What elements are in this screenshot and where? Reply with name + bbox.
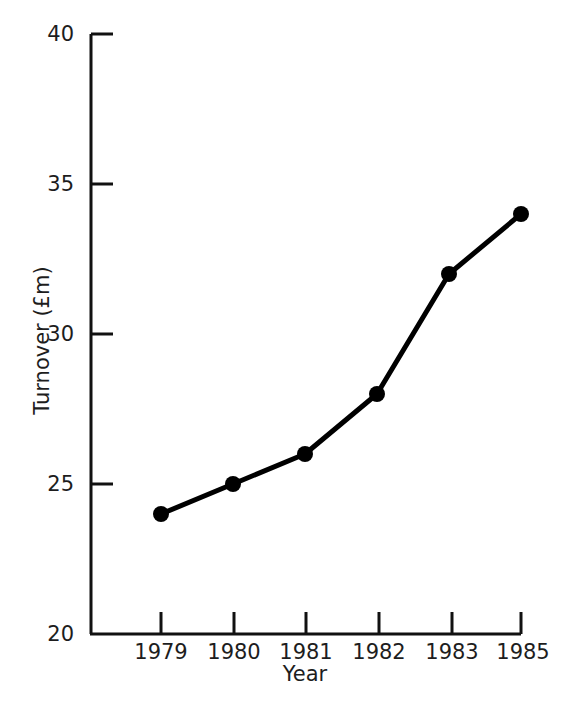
y-tick-label-40: 40 [14, 24, 74, 45]
data-point-1980 [225, 476, 241, 492]
y-tick-label-20: 20 [14, 624, 74, 645]
data-point-1983 [441, 266, 457, 282]
data-point-1981 [297, 446, 313, 462]
data-point-1979 [153, 506, 169, 522]
chart-figure: 40 35 30 25 20 1979 1980 1981 1982 1983 … [0, 0, 568, 704]
data-point-1985 [513, 206, 529, 222]
line-chart-canvas [0, 0, 568, 704]
y-axis-title: Turnover (£m) [32, 241, 53, 441]
data-point-1982 [369, 386, 385, 402]
x-axis-title: Year [260, 664, 350, 685]
x-tick-label-1985: 1985 [478, 642, 568, 663]
y-tick-label-35: 35 [14, 174, 74, 195]
chart-background [0, 0, 568, 704]
y-tick-label-25: 25 [14, 474, 74, 495]
